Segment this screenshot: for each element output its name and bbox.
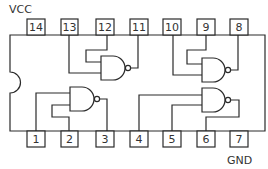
vcc-label: VCC: [9, 3, 32, 16]
svg-text:7: 7: [236, 133, 243, 146]
pin-12: 12: [96, 19, 114, 35]
pin-7: 7: [230, 131, 248, 147]
top-pin-row: 14 13 12 11 10 9 8: [27, 19, 248, 35]
pin-11: 11: [130, 19, 148, 35]
svg-text:9: 9: [203, 21, 210, 34]
pin-4: 4: [130, 131, 148, 147]
pin-1: 1: [27, 131, 45, 147]
svg-text:3: 3: [102, 133, 109, 146]
svg-text:14: 14: [29, 21, 43, 34]
nand-gate-body: [101, 56, 125, 80]
wire-pin8: [231, 35, 238, 70]
nand-gate-top-left: [69, 35, 138, 80]
gnd-label: GND: [227, 154, 252, 167]
ic-pinout-diagram: VCC GND 14 13 12 11 10 9 8: [0, 0, 268, 169]
inverter-bubble-icon: [225, 97, 230, 102]
pin-8: 8: [230, 19, 248, 35]
nand-gate-body: [70, 87, 94, 111]
pin-14: 14: [27, 19, 45, 35]
nand-gate-top-right: [173, 35, 238, 82]
pin-3: 3: [96, 131, 114, 147]
wire-pin1: [36, 93, 70, 131]
pin-5: 5: [163, 131, 181, 147]
svg-text:8: 8: [236, 21, 243, 34]
svg-text:6: 6: [203, 133, 210, 146]
wire-pin2: [52, 105, 70, 131]
svg-text:12: 12: [98, 21, 112, 34]
pin-2: 2: [61, 131, 78, 147]
svg-text:1: 1: [33, 133, 40, 146]
pin-13: 13: [61, 19, 78, 35]
wire-pin4: [139, 95, 202, 131]
nand-gate-body: [202, 58, 225, 82]
svg-text:13: 13: [63, 21, 77, 34]
nand-gate-body: [202, 88, 225, 112]
inverter-bubble-icon: [125, 65, 130, 70]
nand-gate-bottom-left: [36, 87, 107, 131]
svg-text:5: 5: [169, 133, 176, 146]
wire-pin11: [131, 35, 138, 68]
inverter-bubble-icon: [94, 96, 99, 101]
svg-text:4: 4: [136, 133, 143, 146]
pin-10: 10: [163, 19, 181, 35]
svg-text:2: 2: [66, 133, 73, 146]
wire-pin13: [69, 35, 101, 73]
nand-gate-bottom-right: [139, 88, 239, 131]
inverter-bubble-icon: [225, 67, 230, 72]
pin-6: 6: [197, 131, 215, 147]
bottom-pin-row: 1 2 3 4 5 6 7: [27, 131, 248, 147]
wire-pin5: [172, 105, 202, 131]
svg-text:10: 10: [165, 21, 179, 34]
wire-pin3: [100, 99, 107, 131]
svg-text:11: 11: [132, 21, 146, 34]
pin-9: 9: [197, 19, 215, 35]
